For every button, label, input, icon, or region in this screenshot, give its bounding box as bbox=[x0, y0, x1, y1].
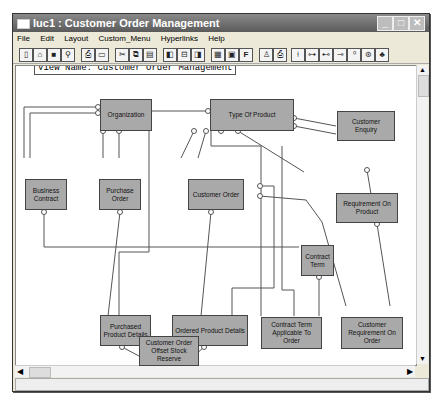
print-preview-icon[interactable]: ▭ bbox=[95, 48, 109, 62]
relation-1-icon[interactable]: ⊶ bbox=[305, 48, 319, 62]
layout-left-icon[interactable]: ◧ bbox=[163, 48, 177, 62]
tool-a-icon[interactable]: ♙ bbox=[259, 48, 273, 62]
minimize-button[interactable]: _ bbox=[377, 16, 393, 31]
menu-help[interactable]: Help bbox=[208, 34, 224, 43]
entity-organization[interactable]: Organization bbox=[100, 99, 152, 131]
menu-custom[interactable]: Custom_Menu bbox=[98, 34, 150, 43]
vertical-scrollbar[interactable]: ▲ ▼ bbox=[416, 65, 428, 364]
tool-b-icon[interactable]: ⎙ bbox=[273, 48, 287, 62]
diagram-canvas[interactable]: View Name: Customer Order Management bbox=[15, 65, 417, 366]
paste-icon[interactable]: ▤ bbox=[143, 48, 157, 62]
entity-type-of-product[interactable]: Type Of Product bbox=[210, 99, 294, 131]
relation-5-icon[interactable]: ⊛ bbox=[361, 48, 375, 62]
status-bar bbox=[15, 378, 429, 391]
entity-requirement-on-product[interactable]: Requirement On Product bbox=[336, 193, 398, 223]
find-icon[interactable]: ⚲ bbox=[61, 48, 75, 62]
scroll-right-icon[interactable]: ▶ bbox=[407, 366, 413, 377]
horizontal-scrollbar[interactable]: ◀ ▶ bbox=[15, 365, 415, 377]
new-icon[interactable]: ▯ bbox=[19, 48, 33, 62]
copy-icon[interactable]: ⧉ bbox=[129, 48, 143, 62]
layout-right-icon[interactable]: ◨ bbox=[191, 48, 205, 62]
entity-customer-order[interactable]: Customer Order bbox=[188, 179, 244, 210]
entity-customer-requirement-on-order[interactable]: Customer Requirement On Order bbox=[341, 317, 403, 349]
tool-c-icon[interactable]: ⍿ bbox=[291, 48, 305, 62]
entity-customer-order-offset-stock-reserve[interactable]: Customer Order Offset Stock Reserve bbox=[139, 336, 199, 366]
menu-layout[interactable]: Layout bbox=[64, 34, 88, 43]
save-icon[interactable]: ■ bbox=[47, 48, 61, 62]
view-icon[interactable]: ▣ bbox=[225, 48, 239, 62]
entity-purchase-order[interactable]: Purchase Order bbox=[99, 179, 141, 210]
entity-business-contract[interactable]: Business Contract bbox=[25, 179, 67, 210]
maximize-button[interactable]: □ bbox=[393, 16, 409, 31]
entity-customer-enquiry[interactable]: Customer Enquiry bbox=[337, 111, 395, 141]
print-icon[interactable]: ⎙ bbox=[81, 48, 95, 62]
grid-icon[interactable]: ▦ bbox=[211, 48, 225, 62]
scroll-left-icon[interactable]: ◀ bbox=[17, 366, 23, 377]
cut-icon[interactable]: ✂ bbox=[115, 48, 129, 62]
scroll-down-icon[interactable]: ▼ bbox=[417, 354, 428, 364]
app-icon bbox=[17, 19, 30, 29]
relation-4-icon[interactable]: ⁰ bbox=[347, 48, 361, 62]
layout-center-icon[interactable]: ⊟ bbox=[177, 48, 191, 62]
entity-contract-term-applicable-to-order[interactable]: Contract Term Applicable To Order bbox=[261, 317, 322, 349]
relation-6-icon[interactable]: ♣ bbox=[375, 48, 389, 62]
window-title: luc1 : Customer Order Management bbox=[33, 14, 219, 32]
relation-3-icon[interactable]: ⊸ bbox=[333, 48, 347, 62]
open-icon[interactable]: ⌂ bbox=[33, 48, 47, 62]
menu-bar: File Edit Layout Custom_Menu Hyperlinks … bbox=[13, 32, 429, 45]
app-window: luc1 : Customer Order Management _ □ ✕ F… bbox=[12, 13, 430, 392]
entity-contract-term[interactable]: Contract Term bbox=[301, 245, 334, 276]
scroll-up-icon[interactable]: ▲ bbox=[417, 65, 428, 75]
horizontal-scroll-thumb[interactable] bbox=[29, 367, 51, 378]
title-bar[interactable]: luc1 : Customer Order Management _ □ ✕ bbox=[13, 14, 429, 32]
relation-2-icon[interactable]: ⊷ bbox=[319, 48, 333, 62]
vertical-scroll-thumb[interactable] bbox=[418, 75, 429, 97]
menu-edit[interactable]: Edit bbox=[40, 34, 54, 43]
toolbar: ▯ ⌂ ■ ⚲ ⎙ ▭ ✂ ⧉ ▤ ◧ ⊟ ◨ ▦ ▣ F ♙ ⎙ ⍿ ⊶ ⊷ … bbox=[13, 45, 429, 64]
close-button[interactable]: ✕ bbox=[409, 16, 425, 31]
font-icon[interactable]: F bbox=[239, 48, 253, 62]
menu-hyperlinks[interactable]: Hyperlinks bbox=[161, 34, 198, 43]
menu-file[interactable]: File bbox=[17, 34, 30, 43]
